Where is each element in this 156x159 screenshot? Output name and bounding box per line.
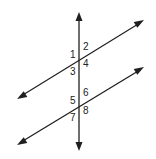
angle-label-6: 6 (83, 87, 89, 98)
parallel-lines-transversal-diagram: 1 2 3 4 5 6 7 8 (0, 0, 156, 159)
angle-label-1: 1 (70, 49, 76, 60)
angle-label-5: 5 (70, 95, 76, 106)
angle-label-7: 7 (70, 112, 76, 123)
arrow-up-icon (76, 12, 83, 21)
angle-label-4: 4 (83, 58, 89, 69)
arrow-right-up-icon (134, 67, 144, 75)
arrow-left-down-icon (17, 137, 27, 145)
transversal-line (76, 12, 83, 151)
top-parallel-line (17, 20, 144, 99)
angle-label-8: 8 (83, 105, 89, 116)
angle-label-3: 3 (70, 66, 76, 77)
bottom-parallel-line (17, 67, 144, 145)
arrow-down-icon (76, 142, 83, 151)
angle-label-2: 2 (83, 41, 89, 52)
